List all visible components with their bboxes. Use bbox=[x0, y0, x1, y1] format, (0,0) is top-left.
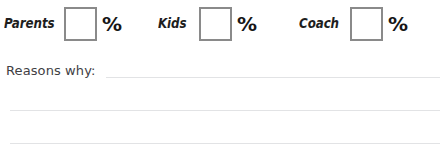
reasons-write-line-2[interactable] bbox=[10, 110, 440, 111]
coach-percent-input[interactable] bbox=[350, 7, 383, 41]
kids-percent-sign: % bbox=[237, 14, 257, 34]
percentage-allocation-form: Parents % Kids % Coach % Reasons why: bbox=[0, 0, 447, 160]
reasons-write-line-3[interactable] bbox=[10, 143, 440, 144]
coach-label: Coach bbox=[299, 17, 341, 31]
reasons-why-label: Reasons why: bbox=[6, 63, 95, 79]
percentage-group-coach: Coach % bbox=[299, 0, 408, 48]
reasons-write-line-1[interactable] bbox=[106, 77, 440, 78]
parents-label: Parents bbox=[4, 17, 55, 31]
kids-percent-input[interactable] bbox=[199, 7, 232, 41]
coach-percent-sign: % bbox=[388, 14, 408, 34]
kids-label: Kids bbox=[158, 17, 191, 31]
percentage-row: Parents % Kids % Coach % bbox=[0, 0, 447, 48]
parents-percent-input[interactable] bbox=[64, 7, 97, 41]
parents-percent-sign: % bbox=[102, 14, 122, 34]
percentage-group-kids: Kids % bbox=[158, 0, 257, 48]
percentage-group-parents: Parents % bbox=[4, 0, 122, 48]
